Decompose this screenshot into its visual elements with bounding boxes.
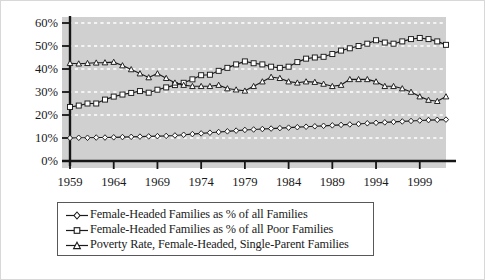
diamond-marker-icon [64, 208, 90, 221]
chart-legend: Female-Headed Families as % of all Famil… [57, 202, 374, 256]
svg-text:30%: 30% [35, 85, 59, 99]
svg-text:60%: 60% [35, 16, 59, 30]
legend-item-poor-families: Female-Headed Families as % of all Poor … [64, 222, 373, 237]
svg-text:20%: 20% [35, 108, 59, 122]
legend-label-all-families: Female-Headed Families as % of all Famil… [90, 208, 308, 221]
svg-text:1969: 1969 [145, 175, 170, 189]
chart-figure: 0%10%20%30%40%50%60%19591964196919741979… [0, 0, 485, 280]
svg-text:1974: 1974 [189, 175, 215, 189]
line-chart-svg: 0%10%20%30%40%50%60%19591964196919741979… [1, 1, 485, 197]
svg-text:1999: 1999 [407, 175, 432, 189]
svg-text:1964: 1964 [101, 175, 127, 189]
svg-text:1979: 1979 [232, 175, 257, 189]
svg-text:10%: 10% [35, 131, 59, 145]
square-marker-icon [64, 223, 90, 236]
svg-text:50%: 50% [35, 39, 59, 53]
legend-label-poverty-rate: Poverty Rate, Female-Headed, Single-Pare… [90, 238, 349, 251]
plot-area: 0%10%20%30%40%50%60%19591964196919741979… [1, 1, 485, 197]
legend-label-poor-families: Female-Headed Families as % of all Poor … [90, 223, 333, 236]
triangle-marker-icon [64, 238, 90, 251]
svg-text:1984: 1984 [276, 175, 302, 189]
svg-text:0%: 0% [41, 154, 58, 168]
svg-text:1989: 1989 [320, 175, 345, 189]
svg-text:1959: 1959 [57, 175, 82, 189]
legend-item-poverty-rate: Poverty Rate, Female-Headed, Single-Pare… [64, 237, 373, 252]
legend-item-all-families: Female-Headed Families as % of all Famil… [64, 207, 373, 222]
svg-text:1994: 1994 [363, 175, 389, 189]
svg-text:40%: 40% [35, 62, 59, 76]
